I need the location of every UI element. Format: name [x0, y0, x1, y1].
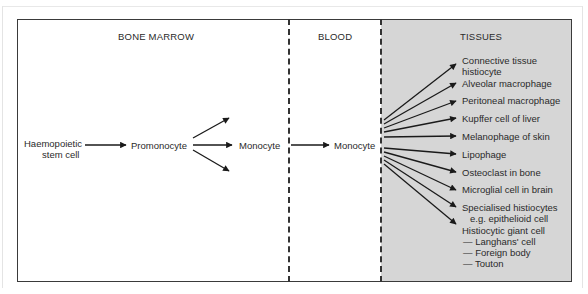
- arrow-promonocyte-down: [193, 150, 229, 171]
- arrow-to-alveolar: [384, 83, 456, 124]
- arrow-to-specialised: [384, 160, 456, 207]
- arrow-to-melanophage: [384, 136, 456, 137]
- arrow-to-connective: [384, 64, 456, 120]
- arrow-to-kupffer: [384, 118, 456, 132]
- arrows-layer: [0, 0, 588, 294]
- arrow-to-lipophage: [384, 148, 456, 154]
- arrow-to-osteoclast: [384, 152, 456, 172]
- arrow-to-peritoneal: [384, 101, 456, 128]
- arrow-promonocyte-up: [193, 118, 229, 138]
